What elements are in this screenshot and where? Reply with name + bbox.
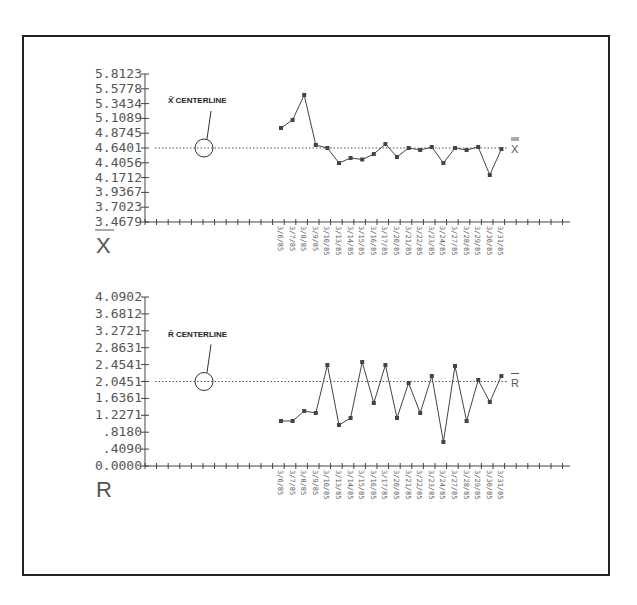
x-tick-label: 3/6/85 bbox=[276, 470, 284, 495]
x-tick-label: 3/30/85 bbox=[485, 470, 493, 500]
data-point bbox=[302, 93, 306, 97]
x-tick-label: 3/13/85 bbox=[334, 226, 342, 256]
x-tick-label: 3/14/85 bbox=[346, 470, 354, 500]
y-tick-label: 3.4679 bbox=[95, 214, 142, 229]
x-tick-label: 3/10/85 bbox=[322, 470, 330, 500]
x-tick-label: 3/20/85 bbox=[392, 470, 400, 500]
y-tick-label: 1.2271 bbox=[95, 407, 142, 422]
data-point bbox=[291, 419, 295, 423]
x-tick-label: 3/17/85 bbox=[380, 470, 388, 500]
x-tick-label: 3/20/85 bbox=[392, 226, 400, 256]
data-point bbox=[407, 381, 411, 385]
x-tick-label: 3/16/85 bbox=[369, 470, 377, 500]
y-tick-label: 5.5778 bbox=[95, 81, 142, 96]
data-point bbox=[476, 145, 480, 149]
data-point bbox=[360, 157, 364, 161]
data-point bbox=[325, 363, 329, 367]
callout-leader bbox=[207, 345, 211, 373]
y-tick-label: .4090 bbox=[103, 441, 142, 456]
data-point bbox=[499, 147, 503, 151]
y-tick-label: 5.1089 bbox=[95, 110, 142, 125]
x-tick-label: 3/27/85 bbox=[450, 470, 458, 500]
y-tick-label: 0.0000 bbox=[95, 458, 142, 473]
data-point bbox=[465, 148, 469, 152]
data-point bbox=[372, 152, 376, 156]
x-tick-label: 3/16/85 bbox=[369, 226, 377, 256]
centerline-callout-label: R̄ CENTERLINE bbox=[168, 330, 228, 339]
x-tick-label: 3/30/85 bbox=[485, 226, 493, 256]
x-tick-label: 3/28/85 bbox=[462, 470, 470, 500]
x-tick-label: 3/21/85 bbox=[404, 470, 412, 500]
y-tick-label: 3.9367 bbox=[95, 184, 142, 199]
x-tick-label: 3/8/85 bbox=[299, 226, 307, 251]
data-point bbox=[395, 155, 399, 159]
data-point bbox=[430, 145, 434, 149]
y-tick-label: 4.6401 bbox=[95, 140, 142, 155]
data-point bbox=[488, 173, 492, 177]
axis-symbol: X bbox=[96, 233, 111, 258]
y-tick-label: 4.8745 bbox=[95, 125, 142, 140]
data-point bbox=[337, 161, 341, 165]
x-tick-label: 3/31/85 bbox=[496, 226, 504, 256]
data-point bbox=[279, 126, 283, 130]
y-tick-label: 1.6361 bbox=[95, 390, 142, 405]
x-tick-label: 3/24/85 bbox=[438, 226, 446, 256]
y-tick-label: 4.0902 bbox=[95, 289, 142, 304]
y-tick-label: 3.7023 bbox=[95, 199, 142, 214]
x-tick-label: 3/17/85 bbox=[380, 226, 388, 256]
y-tick-label: 3.2721 bbox=[95, 323, 142, 338]
data-point bbox=[418, 411, 422, 415]
y-tick-label: 3.6812 bbox=[95, 306, 142, 321]
y-tick-label: 2.4541 bbox=[95, 357, 142, 372]
y-tick-label: 5.8123 bbox=[95, 66, 142, 81]
data-point bbox=[337, 423, 341, 427]
axis-symbol: R bbox=[96, 477, 112, 502]
data-point bbox=[441, 440, 445, 444]
y-tick-label: 2.0451 bbox=[95, 374, 142, 389]
x-tick-label: 3/9/85 bbox=[311, 470, 319, 495]
x-tick-label: 3/22/85 bbox=[415, 470, 423, 500]
x-tick-label: 3/7/85 bbox=[288, 226, 296, 251]
x-tick-label: 3/22/85 bbox=[415, 226, 423, 256]
callout-leader bbox=[207, 111, 211, 139]
x-tick-label: 3/21/85 bbox=[404, 226, 412, 256]
y-tick-label: 4.4056 bbox=[95, 155, 142, 170]
x-tick-label: 3/24/85 bbox=[438, 470, 446, 500]
data-point bbox=[279, 419, 283, 423]
centerline-end-symbol: R bbox=[511, 377, 519, 389]
x-tick-label: 3/23/85 bbox=[427, 470, 435, 500]
data-point bbox=[383, 142, 387, 146]
x-tick-label: 3/15/85 bbox=[357, 470, 365, 500]
data-point bbox=[302, 409, 306, 413]
control-charts: 5.81235.57785.34345.10894.87454.64014.40… bbox=[0, 0, 637, 605]
data-point bbox=[476, 378, 480, 382]
data-point bbox=[314, 143, 318, 147]
x-tick-label: 3/31/85 bbox=[496, 470, 504, 500]
y-tick-label: 2.8631 bbox=[95, 340, 142, 355]
x-tick-label: 3/28/85 bbox=[462, 226, 470, 256]
x-tick-label: 3/6/85 bbox=[276, 226, 284, 251]
data-point bbox=[383, 363, 387, 367]
data-point bbox=[430, 374, 434, 378]
xbar-chart: 5.81235.57785.34345.10894.87454.64014.40… bbox=[95, 66, 570, 258]
x-tick-label: 3/27/85 bbox=[450, 226, 458, 256]
data-point bbox=[441, 161, 445, 165]
data-line bbox=[281, 362, 501, 442]
data-line bbox=[281, 95, 501, 175]
data-point bbox=[349, 416, 353, 420]
x-tick-label: 3/14/85 bbox=[346, 226, 354, 256]
centerline-callout-label: X̄̄ CENTERLINE bbox=[168, 96, 227, 105]
y-tick-label: 5.3434 bbox=[95, 96, 142, 111]
x-tick-label: 3/15/85 bbox=[357, 226, 365, 256]
data-point bbox=[453, 364, 457, 368]
data-point bbox=[349, 156, 353, 160]
x-tick-label: 3/23/85 bbox=[427, 226, 435, 256]
data-point bbox=[407, 146, 411, 150]
y-tick-label: 4.1712 bbox=[95, 170, 142, 185]
data-point bbox=[453, 146, 457, 150]
r-chart: 4.09023.68123.27212.86312.45412.04511.63… bbox=[95, 289, 570, 502]
y-tick-label: .8180 bbox=[103, 424, 142, 439]
x-tick-label: 3/8/85 bbox=[299, 470, 307, 495]
x-tick-label: 3/10/85 bbox=[322, 226, 330, 256]
data-point bbox=[291, 118, 295, 122]
